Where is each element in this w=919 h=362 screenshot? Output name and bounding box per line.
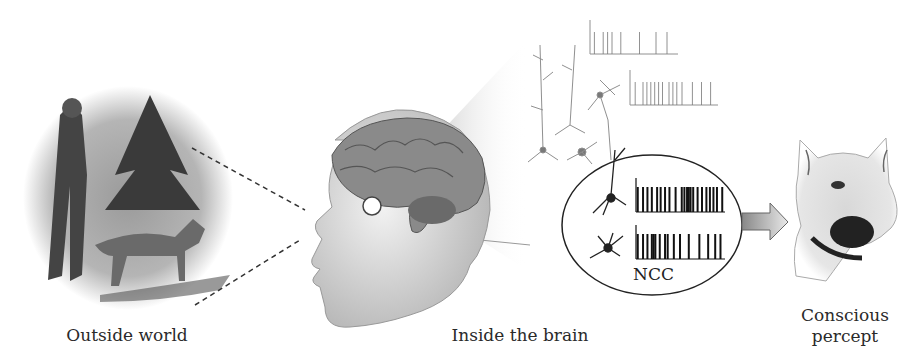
highlighted-region — [363, 197, 381, 215]
head-profile — [312, 110, 490, 327]
caption-conscious-percept-line2: percept — [790, 326, 900, 346]
conscious-percept-dog — [794, 138, 897, 281]
caption-outside-world: Outside world — [32, 325, 222, 345]
arrow-right-icon — [742, 203, 788, 240]
outside-world-photo — [23, 86, 233, 310]
faint-neurons — [528, 45, 620, 164]
caption-conscious-percept-line1: Conscious — [790, 305, 900, 325]
caption-inside-brain: Inside the brain — [425, 325, 615, 345]
diagram-canvas — [0, 0, 919, 362]
ncc-label: NCC — [633, 264, 674, 284]
